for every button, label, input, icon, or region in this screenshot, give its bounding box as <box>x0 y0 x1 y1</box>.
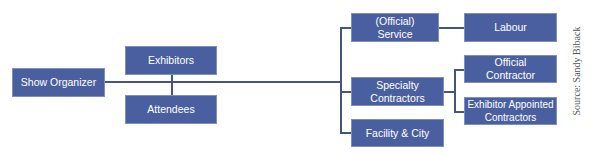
node-general-service-contractor: General (Official) Service Contractor <box>351 13 439 42</box>
bracket-to-general <box>340 27 351 29</box>
node-official-contractor: Official Contractor <box>464 55 557 83</box>
specialty-bracket-vertical <box>454 69 456 112</box>
bracket-to-exhibitor-appointed <box>454 111 464 113</box>
node-facility-city: Facility & City <box>351 119 444 147</box>
node-labour: Labour <box>464 13 557 42</box>
bracket-to-facility <box>340 132 351 134</box>
node-attendees: Attendees <box>125 95 217 124</box>
specialty-stub <box>444 91 454 93</box>
node-specialty-contractors: Specialty Contractors <box>351 77 444 106</box>
source-credit: Source: Sandy Biback <box>568 6 584 136</box>
exhibitors-attendees-connector <box>171 75 173 95</box>
trunk-line <box>105 81 341 83</box>
source-credit-text: Source: Sandy Biback <box>571 27 582 116</box>
node-exhibitor-appointed-contractors: Exhibitor Appointed Contractors <box>464 97 557 125</box>
node-exhibitors: Exhibitors <box>125 46 217 75</box>
bracket-to-specialty <box>340 91 351 93</box>
bracket-to-official <box>454 69 464 71</box>
node-show-organizer: Show Organizer <box>12 68 105 97</box>
general-to-labour <box>439 27 464 29</box>
contractor-bracket-vertical <box>340 27 342 134</box>
